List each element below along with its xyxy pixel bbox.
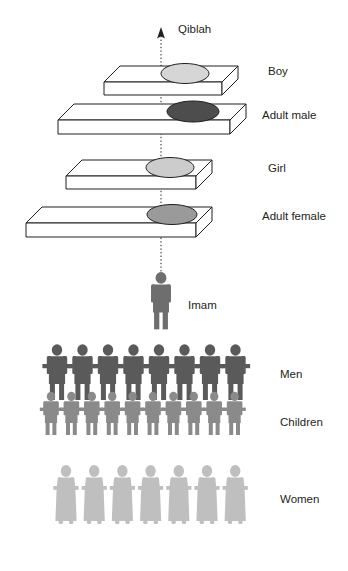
funeral-prayer-diagram: Qiblah Boy Adult male Girl Adult female …	[0, 0, 348, 571]
figure	[119, 344, 148, 400]
figure	[221, 344, 250, 400]
imam-label: Imam	[188, 300, 217, 312]
diagram-canvas	[0, 0, 348, 571]
bier-adult-female	[26, 205, 212, 238]
figure	[82, 465, 107, 524]
row-label-children: Children	[280, 417, 323, 429]
figure	[81, 392, 103, 435]
figure	[93, 344, 122, 400]
bier-label-boy: Boy	[268, 66, 288, 78]
bier-label-adult-male: Adult male	[262, 110, 316, 122]
figure	[194, 465, 219, 524]
row-men	[42, 344, 250, 400]
figure	[166, 465, 191, 524]
body-ellipse-adult-female	[147, 205, 197, 225]
bier-girl	[66, 158, 212, 190]
qiblah-label: Qiblah	[178, 24, 211, 36]
figure	[53, 465, 78, 524]
figure	[110, 465, 135, 524]
body-ellipse-boy	[161, 64, 209, 84]
row-women	[53, 465, 247, 524]
bier-adult-male	[58, 101, 246, 134]
body-ellipse-adult-male	[167, 101, 219, 122]
figure	[144, 344, 173, 400]
figure	[142, 392, 164, 435]
figure	[68, 344, 97, 400]
figure	[183, 392, 205, 435]
body-ellipse-girl	[146, 158, 194, 178]
row-label-men: Men	[280, 369, 302, 381]
bier-label-girl: Girl	[268, 163, 286, 175]
bier-boy	[104, 64, 238, 96]
figure	[223, 465, 248, 524]
imam-figure	[151, 272, 171, 329]
figure	[42, 344, 71, 400]
row-label-women: Women	[280, 494, 319, 506]
figure	[170, 344, 199, 400]
figure	[40, 392, 62, 435]
row-children	[40, 392, 246, 435]
bier-label-adult-female: Adult female	[262, 211, 326, 223]
figure	[138, 465, 163, 524]
figure	[195, 344, 224, 400]
